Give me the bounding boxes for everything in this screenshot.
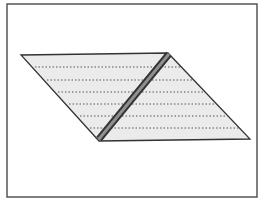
diagram-canvas	[0, 0, 261, 204]
diagram-svg	[0, 0, 261, 204]
